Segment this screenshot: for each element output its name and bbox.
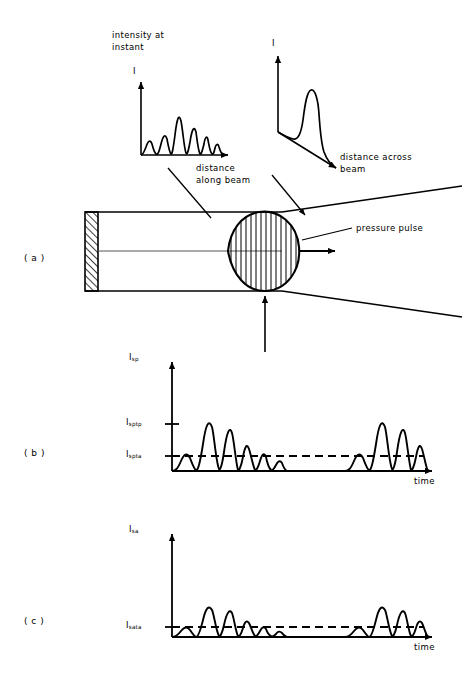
inset-a-title-line2: instant	[112, 42, 144, 53]
inset-a-title-line1: intensity at	[112, 30, 164, 41]
pressure-pulse-label: pressure pulse	[356, 223, 423, 234]
inset-b-x-axis-label-line1: distance across	[340, 152, 412, 162]
panel-c-burst-2	[345, 607, 432, 637]
beam-divergence-top	[282, 186, 462, 212]
panel-b-y-axis-label: Isp	[129, 352, 139, 362]
inset-a-x-axis-label-line2: along beam	[196, 175, 250, 185]
figure-canvas	[0, 0, 469, 685]
panel-b-tick-label-spta: Ispta	[126, 449, 142, 459]
panel-c-tick-label-sata-sub: sata	[129, 624, 142, 630]
panel-b-burst-1	[172, 423, 291, 471]
inset-a-y-axis-label: I	[133, 66, 136, 76]
panel-label-b: ( b )	[24, 448, 45, 458]
inset-b-waveform	[278, 90, 336, 168]
panel-b-tick-label-spta-sub: spta	[129, 453, 142, 459]
panel-b-tick-label-sptp-sub: sptp	[129, 421, 142, 427]
panel-c-chart	[165, 534, 432, 637]
beam-divergence-bottom	[282, 291, 462, 317]
panel-b-chart	[165, 362, 432, 471]
panel-b-x-axis-label: time	[414, 476, 435, 486]
panel-c-tick-label-sata: Isata	[126, 620, 142, 630]
panel-label-a: ( a )	[24, 253, 45, 263]
inset-a-x-axis-label-line1: distance	[196, 163, 235, 173]
panel-c-burst-1	[172, 607, 291, 637]
inset-b-x-axis-label-line2: beam	[340, 164, 366, 174]
panel-c-y-axis-label: Isa	[129, 524, 139, 534]
inset-b-y-axis-label: I	[272, 38, 275, 48]
panel-label-c: ( c )	[24, 616, 44, 626]
inset-across-beam-chart	[272, 56, 336, 215]
panel-b-burst-2	[345, 423, 432, 471]
panel-c-y-axis-label-sub: sa	[132, 528, 139, 534]
beam-diagram	[85, 186, 462, 352]
panel-b-y-axis-label-sub: sp	[132, 356, 139, 362]
inset-along-beam-chart	[141, 82, 228, 218]
pressure-pulse-leader-line	[302, 228, 352, 240]
transducer-icon	[85, 212, 98, 291]
ultrasound-intensity-figure: intensity at instant I distance along be…	[0, 0, 469, 685]
panel-b-tick-label-sptp: Isptp	[126, 417, 142, 427]
inset-a-waveform	[141, 117, 228, 155]
panel-c-x-axis-label: time	[414, 642, 435, 652]
